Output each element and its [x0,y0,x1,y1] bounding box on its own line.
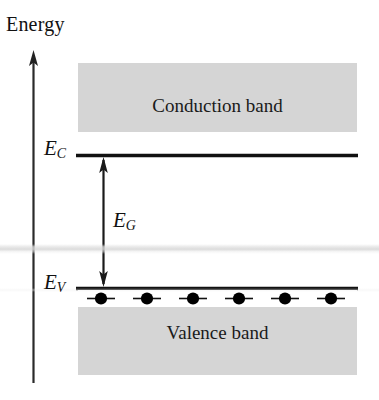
valence-band-electron-strip [78,290,357,307]
valence-edge-symbol: E [44,270,57,294]
conduction-band-empty-strip [78,132,357,153]
band-diagram-figure: Energy [0,0,379,400]
valence-band-label: Valence band [78,322,357,344]
valence-edge-label: EV [44,270,65,296]
conduction-edge-symbol: E [44,136,57,160]
valence-edge-subscript: V [57,280,65,295]
band-gap-label: EG [113,208,136,234]
band-gap-symbol: E [113,208,126,232]
conduction-edge-label: EC [44,136,66,162]
conduction-edge-subscript: C [57,146,66,161]
band-gap-subscript: G [126,218,136,233]
conduction-band-label: Conduction band [78,95,357,117]
energy-axis [29,50,38,383]
band-gap-arrow [99,157,108,287]
